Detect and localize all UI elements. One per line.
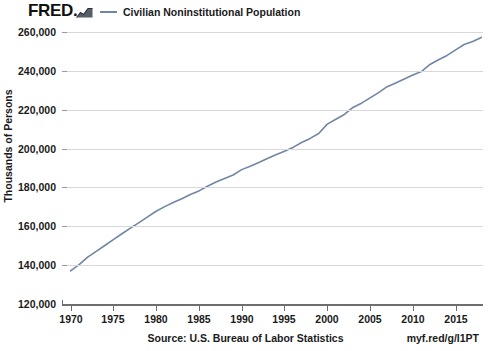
y-axis-tick	[62, 71, 67, 72]
chart-legend: Civilian Noninstitutional Population	[100, 4, 300, 19]
y-axis-tick	[62, 32, 67, 33]
y-axis-tick-label: 120,000	[18, 299, 56, 310]
y-axis-tick	[62, 187, 67, 188]
gridline-y	[62, 265, 483, 266]
y-axis-tick	[62, 226, 67, 227]
gridline-y	[62, 149, 483, 150]
y-axis-tick-label: 140,000	[18, 260, 56, 271]
x-axis-tick	[242, 306, 243, 311]
x-axis-tick	[456, 306, 457, 311]
x-axis-tick-label: 1995	[272, 313, 295, 325]
x-axis-line	[62, 304, 483, 306]
x-axis-left-cap	[62, 300, 63, 305]
x-axis-tick	[156, 306, 157, 311]
legend-swatch-series-0	[100, 11, 117, 13]
series-polyline	[71, 37, 482, 270]
y-axis-tick-labels: 120,000140,000160,000180,000200,000220,0…	[0, 0, 56, 351]
gridline-y	[62, 71, 483, 72]
x-axis-tick-label: 2010	[401, 313, 424, 325]
y-axis-tick	[62, 149, 67, 150]
y-axis-tick-label: 160,000	[18, 221, 56, 232]
y-axis-tick-label: 220,000	[18, 105, 56, 116]
x-axis-tick	[71, 306, 72, 311]
x-axis-tick	[370, 306, 371, 311]
x-axis-tick	[413, 306, 414, 311]
gridline-y	[62, 32, 483, 33]
x-axis-tick	[327, 306, 328, 311]
short-url-label[interactable]: myf.red/g/l1PT	[407, 332, 479, 345]
x-axis-tick	[284, 306, 285, 311]
y-axis-tick-label: 200,000	[18, 144, 56, 155]
gridline-y	[62, 187, 483, 188]
y-axis-tick-label: 260,000	[18, 27, 56, 38]
chart-header: FRED. Civilian Noninstitutional Populati…	[0, 0, 491, 24]
legend-label-series-0: Civilian Noninstitutional Population	[123, 6, 300, 18]
x-axis-tick	[199, 306, 200, 311]
x-axis-tick-label: 1975	[101, 313, 124, 325]
x-axis-tick-label: 1980	[144, 313, 167, 325]
x-axis-tick-label: 1990	[230, 313, 253, 325]
y-axis-tick	[62, 265, 67, 266]
fred-line-chart-mark-icon	[76, 7, 93, 18]
y-axis-tick	[62, 110, 67, 111]
x-axis-tick	[113, 306, 114, 311]
plot-area	[62, 32, 483, 304]
y-axis-tick-label: 180,000	[18, 182, 56, 193]
x-axis-tick-label: 1970	[59, 313, 82, 325]
x-axis-tick-label: 1985	[187, 313, 210, 325]
series-line-civilian-noninstitutional-population	[62, 32, 483, 304]
x-axis-tick-label: 2015	[444, 313, 467, 325]
x-axis-tick-label: 2000	[315, 313, 338, 325]
fred-chart-figure: FRED. Civilian Noninstitutional Populati…	[0, 0, 491, 351]
gridline-y	[62, 110, 483, 111]
y-axis-tick-label: 240,000	[18, 66, 56, 77]
x-axis-tick-label: 2005	[358, 313, 381, 325]
gridline-y	[62, 226, 483, 227]
